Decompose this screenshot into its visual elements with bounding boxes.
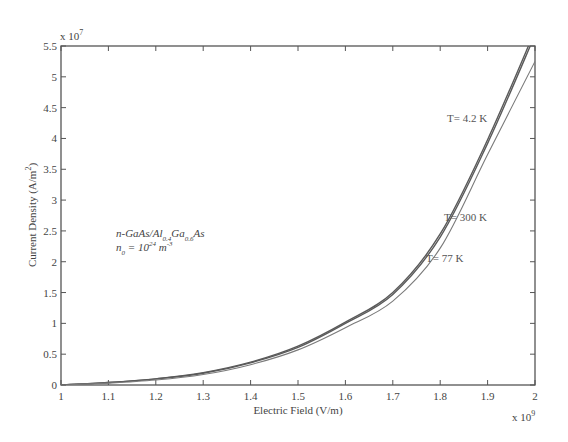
curves: [61, 31, 535, 385]
x-tick-label: 1.7: [386, 390, 400, 402]
x-tick-label: 1.9: [481, 390, 495, 402]
curve-t-4-2k: [61, 31, 535, 385]
y-tick-label: 5.5: [43, 40, 57, 52]
x-tick-label: 1.4: [244, 390, 258, 402]
curve-t-77k: [61, 61, 535, 385]
label-t-300k: T= 300 K: [444, 211, 487, 223]
x-tick-label: 2: [532, 390, 538, 402]
y-multiplier: x 107: [60, 28, 83, 42]
x-multiplier: x 109: [512, 409, 535, 423]
x-tick-label: 1.8: [433, 390, 447, 402]
x-tick-label: 1.5: [291, 390, 305, 402]
y-tick-label: 2.5: [43, 225, 57, 237]
x-tick-label: 1.6: [339, 390, 353, 402]
x-tick-label: 1: [58, 390, 64, 402]
x-axis-title: Electric Field (V/m): [253, 404, 343, 417]
density-annotation: n0 = 1024 m-3: [116, 240, 173, 257]
x-tick-label: 1.1: [102, 390, 116, 402]
y-tick-label: 2: [52, 256, 58, 268]
y-tick-label: 1.5: [43, 287, 57, 299]
y-tick-label: 3.5: [43, 163, 57, 175]
y-tick-label: 5: [52, 71, 58, 83]
label-t-4-2k: T= 4.2 K: [447, 112, 487, 124]
y-tick-label: 1: [52, 317, 58, 329]
label-t-77k: T= 77 K: [426, 252, 463, 264]
y-tick-label: 0: [52, 379, 58, 391]
y-tick-label: 4.5: [43, 102, 57, 114]
y-tick-label: 3: [52, 194, 58, 206]
curve-t-300k: [61, 35, 535, 385]
y-tick-label: 4: [52, 132, 58, 144]
x-tick-label: 1.2: [149, 390, 163, 402]
x-tick-label: 1.3: [196, 390, 210, 402]
chart: 11.11.21.31.41.51.61.71.81.9200.511.522.…: [0, 0, 568, 442]
y-tick-label: 0.5: [43, 348, 57, 360]
y-axis-title: Current Density (A/m2): [24, 163, 39, 268]
